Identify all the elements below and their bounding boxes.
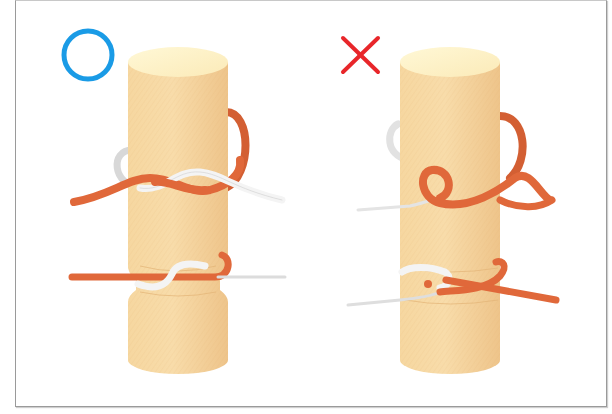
incorrect-cross-mark [343,38,378,72]
correct-panel [64,31,285,374]
correct-circle-mark [64,31,112,79]
incorrect-panel [343,38,556,374]
right-post [400,47,500,374]
knot-illustration [0,0,612,414]
left-post [128,47,228,374]
